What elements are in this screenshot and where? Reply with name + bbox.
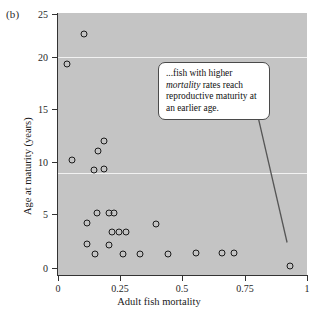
data-point — [91, 167, 98, 174]
panel-label: (b) — [6, 8, 19, 20]
x-axis-title: Adult fish mortality — [0, 296, 318, 307]
x-tick-label-0: 0 — [56, 283, 61, 294]
data-point — [123, 229, 130, 236]
y-tick-25 — [52, 14, 57, 15]
y-axis-line — [57, 13, 58, 276]
data-point — [101, 137, 108, 144]
data-point — [101, 166, 108, 173]
x-tick-label-075: 0.75 — [236, 283, 254, 294]
data-point — [92, 251, 99, 258]
data-point — [93, 210, 100, 217]
y-axis-title: Age at maturity (years) — [22, 117, 33, 215]
data-point — [94, 148, 101, 155]
data-point — [286, 262, 293, 269]
data-point — [164, 251, 171, 258]
data-point — [119, 251, 126, 258]
x-tick-0 — [58, 276, 59, 281]
x-tick-label-05: 0.5 — [176, 283, 189, 294]
y-tick-15 — [52, 109, 57, 110]
gridline-y20 — [58, 57, 307, 58]
y-tick-label-25: 25 — [26, 9, 48, 20]
data-point — [83, 240, 90, 247]
data-point — [111, 210, 118, 217]
y-tick-5 — [52, 214, 57, 215]
data-point — [230, 249, 237, 256]
data-point — [106, 241, 113, 248]
data-point — [68, 156, 75, 163]
annotation-emphasis: mortality — [166, 80, 200, 90]
data-point — [63, 61, 70, 68]
y-tick-label-15: 15 — [26, 104, 48, 115]
data-point — [108, 229, 115, 236]
figure-panel-b: (b) 25 20 15 10 5 0 0 0.25 0.5 0.75 1 Ad… — [0, 0, 318, 312]
data-point — [219, 249, 226, 256]
x-tick-label-025: 0.25 — [111, 283, 129, 294]
data-point — [81, 30, 88, 37]
x-tick-025 — [120, 276, 121, 281]
y-tick-label-0: 0 — [26, 263, 48, 274]
y-tick-10 — [52, 162, 57, 163]
data-point — [116, 229, 123, 236]
x-tick-075 — [245, 276, 246, 281]
data-point — [193, 249, 200, 256]
y-tick-label-20: 20 — [26, 52, 48, 63]
x-tick-1 — [307, 276, 308, 281]
data-point — [83, 219, 90, 226]
x-tick-label-1: 1 — [305, 283, 310, 294]
plot-area — [58, 13, 307, 275]
data-point — [153, 220, 160, 227]
annotation-text-pre: ...fish with higher — [166, 68, 232, 78]
y-tick-0 — [52, 268, 57, 269]
annotation-callout: ...fish with higher mortality rates reac… — [158, 62, 270, 120]
y-tick-20 — [52, 57, 57, 58]
x-tick-05 — [182, 276, 183, 281]
data-point — [137, 251, 144, 258]
